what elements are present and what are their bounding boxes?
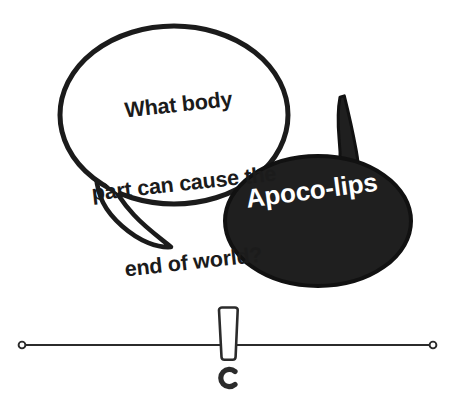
exclamation-dot-icon	[221, 369, 235, 386]
divider-right-ring-icon	[430, 342, 437, 349]
question-line-1: What body	[74, 81, 284, 130]
divider-left-ring-icon	[19, 342, 26, 349]
comic-canvas: What body part can cause the end of worl…	[0, 0, 461, 411]
question-line-3: end of world?	[87, 237, 301, 286]
